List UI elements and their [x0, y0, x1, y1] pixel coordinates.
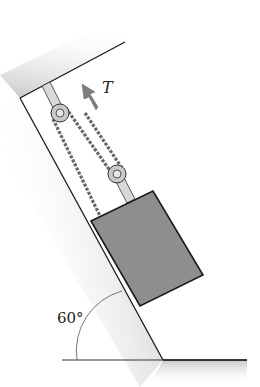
upper-pulley: [51, 104, 69, 122]
angle-label: 60°: [57, 309, 84, 327]
tension-label: T: [102, 78, 114, 97]
incline-wall-shading: [0, 10, 247, 387]
tension-arrow-icon: [82, 84, 98, 110]
lower-pulley: [108, 165, 126, 183]
incline-pulley-diagram: 60° T: [0, 0, 260, 387]
